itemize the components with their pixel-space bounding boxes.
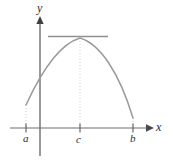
x-axis bbox=[10, 124, 154, 132]
y-axis-arrow-icon bbox=[36, 16, 43, 24]
y-axis bbox=[36, 16, 43, 156]
tick-label-b: b bbox=[130, 133, 136, 144]
y-axis-label: y bbox=[37, 2, 42, 14]
tick-label-a: a bbox=[23, 133, 29, 144]
dotted-guide-lines bbox=[26, 38, 133, 128]
x-axis-label: x bbox=[156, 121, 161, 133]
tick-label-c: c bbox=[76, 134, 81, 145]
function-graph-figure: y x a c b bbox=[0, 0, 170, 165]
x-axis-arrow-icon bbox=[146, 124, 154, 132]
